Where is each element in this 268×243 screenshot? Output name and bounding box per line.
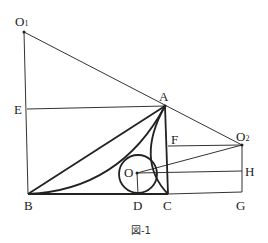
line-O1-B [24, 32, 28, 194]
label-C: C [163, 198, 172, 213]
label-O: O [124, 165, 133, 180]
label-F: F [171, 132, 178, 147]
label-H: H [245, 164, 254, 179]
label-O2: O2 [236, 129, 249, 144]
line-O-D [137, 173, 138, 194]
line-E-A [27, 106, 165, 109]
point-O1 [23, 31, 26, 34]
figure-caption: 図-1 [131, 225, 151, 236]
point-A [164, 105, 167, 108]
label-A: A [159, 89, 169, 104]
point-O [136, 172, 139, 175]
label-G: G [236, 198, 245, 213]
line-C-G [168, 192, 242, 194]
line-O1-O2 [24, 32, 242, 145]
line-B-A [28, 106, 165, 194]
label-E: E [14, 102, 22, 117]
label-O1: O1 [15, 14, 28, 29]
label-B: B [24, 198, 33, 213]
line-F-O2 [168, 145, 242, 146]
line-A-C [165, 106, 168, 194]
geometry-diagram: O1 E A F O2 H O B D C G 図-1 [0, 0, 268, 243]
label-D: D [133, 198, 142, 213]
